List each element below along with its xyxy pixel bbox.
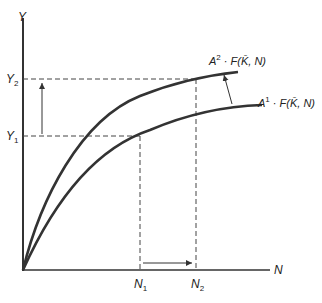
guide-lines <box>23 79 196 270</box>
tick-y2: Y2 <box>6 73 18 88</box>
tick-n2: N2 <box>191 278 204 293</box>
x-axis-label: N <box>274 264 283 276</box>
shift-arrow-curve <box>224 75 232 104</box>
curve-label-upper: A2 · F(K̄, N) <box>209 54 266 67</box>
curve-upper <box>23 72 238 270</box>
curve-label-lower: A1 · F(K̄, N) <box>258 96 315 109</box>
tick-n1: N1 <box>134 278 147 293</box>
tick-y1: Y1 <box>6 130 18 145</box>
curve-lower <box>23 105 262 270</box>
diagram: Y N Y2 Y1 N1 N2 A2 · F(K̄, N) A1 · F(K̄,… <box>0 0 322 303</box>
y-axis-label: Y <box>18 11 26 23</box>
diagram-canvas <box>0 0 322 303</box>
